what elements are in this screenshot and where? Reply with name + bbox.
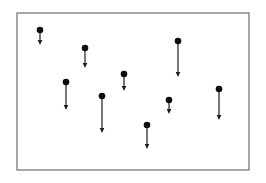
dot-marker [166, 97, 173, 104]
dot-marker [99, 93, 106, 100]
dot-marker [216, 86, 223, 93]
dot-marker [37, 27, 44, 34]
dot-marker [144, 122, 151, 129]
dot-marker [63, 79, 70, 86]
dot-marker [175, 38, 182, 45]
downward-vector-field-diagram [0, 0, 266, 183]
dot-marker [82, 45, 89, 52]
dot-marker [121, 71, 128, 78]
frame-rectangle [17, 13, 249, 170]
figure-canvas [0, 0, 266, 183]
